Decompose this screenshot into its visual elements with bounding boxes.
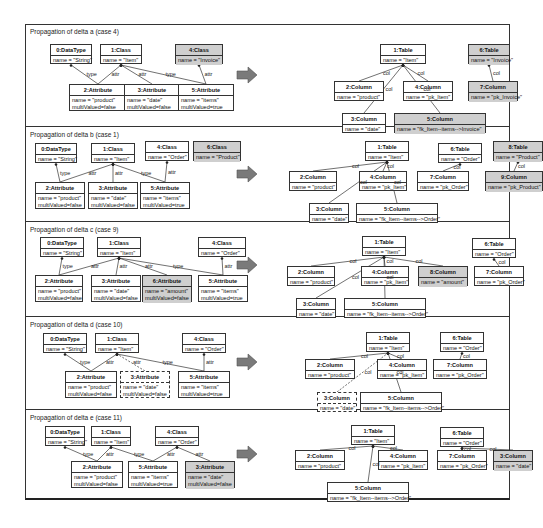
node-id: 2:Attribute xyxy=(72,462,122,473)
source-node-4-class: 4:Classname = "Order" xyxy=(155,426,199,446)
node-attribute: multiValued=true xyxy=(181,391,227,398)
target-node-6-table: 6:Tablename = "Order" xyxy=(440,332,484,352)
edge-label-type: type xyxy=(63,263,73,269)
source-node-3-attribute: 3:Attributename = "date"multiValued=fals… xyxy=(185,461,235,488)
edge-label-col: col xyxy=(361,353,368,359)
node-attributes: name = "Invoice" xyxy=(176,56,222,65)
node-attribute: name = "pk_Item" xyxy=(406,94,450,101)
node-attribute: name = "Item" xyxy=(354,438,392,445)
node-attributes: name = "pk_Item" xyxy=(362,278,408,287)
node-attribute: name = "String" xyxy=(38,156,74,163)
node-attribute: name = "Item" xyxy=(98,346,136,353)
node-attribute: name = "Item" xyxy=(365,249,403,256)
node-attribute: name = "Item" xyxy=(94,439,128,446)
node-attribute: multiValued=false xyxy=(127,104,177,111)
node-id: 6:Table xyxy=(441,333,483,344)
edge-label-attr: attr xyxy=(106,359,114,365)
target-node-1-table: 1:Tablename = "Item" xyxy=(366,332,410,352)
node-attributes: name = "Item" xyxy=(96,345,138,354)
node-attribute: name = "Order" xyxy=(443,440,481,447)
target-node-2-column: 2:Columnname = "product" xyxy=(295,450,345,470)
edge-label-col: col xyxy=(387,258,394,264)
source-node-6-attribute: 6:Attributename = "amount"multiValued=fa… xyxy=(142,275,192,302)
node-attribute: multiValued=false xyxy=(38,295,80,302)
edge-label-type: type xyxy=(87,71,97,77)
edge-label-attr: attr xyxy=(196,451,204,457)
edge-label-col: col xyxy=(352,274,359,280)
node-attributes: name = "items"multiValued=true xyxy=(199,287,247,303)
node-attribute: name = "Order" xyxy=(158,439,196,446)
node-attributes: name = "items"multiValued=true xyxy=(179,383,229,399)
target-node-4-column: 4:Columnname = "pk_Item" xyxy=(361,266,409,286)
node-attributes: name = "Order" xyxy=(441,439,483,448)
node-attributes: name = "String" xyxy=(36,155,76,164)
source-node-4-class: 4:Classname = "Order" xyxy=(182,333,226,353)
panel-delta-d: Propagation of delta d (case 10)0:DataTy… xyxy=(25,317,510,410)
source-node-1-class: 1:Classname = "Item" xyxy=(97,237,141,257)
target-node-3-column: 3:Columnname = "date" xyxy=(317,392,357,412)
edge-label-attr: attr xyxy=(168,169,176,175)
node-id: 0:DataType xyxy=(41,238,83,249)
node-attribute: name = "Order" xyxy=(475,251,513,258)
target-node-7-column: 7:Columnname = "pk_Order" xyxy=(437,450,487,470)
edge-label-col: col xyxy=(352,163,359,169)
node-id: 3:Column xyxy=(494,451,532,462)
node-id: 5:Column xyxy=(357,204,437,215)
node-id: 7:Column xyxy=(434,360,486,371)
node-id: 1:Class xyxy=(98,238,140,249)
node-attribute: name = "String" xyxy=(53,57,89,64)
node-attributes: name = "product" xyxy=(290,183,336,192)
node-attribute: multiValued=false xyxy=(38,202,82,209)
node-attributes: name = "Item" xyxy=(98,249,140,258)
edge-label-attr: attr xyxy=(206,359,214,365)
edge-label-type: type xyxy=(173,263,183,269)
target-node-6-table: 6:Tablename = "Order" xyxy=(472,238,516,258)
node-attributes: name = "product"multiValued=false xyxy=(70,96,126,112)
target-node-1-table: 1:Tablename = "Item" xyxy=(362,236,406,256)
source-node-2-attribute: 2:Attributename = "product"multiValued=f… xyxy=(69,84,127,111)
node-attribute: name = "date" xyxy=(127,97,177,104)
source-node-5-attribute: 5:Attributename = "items"multiValued=tru… xyxy=(128,461,178,488)
node-attribute: name = "Item" xyxy=(103,57,139,64)
target-node-6-table: 6:Tablename = "Order" xyxy=(440,427,484,447)
edge-label-col: col xyxy=(350,258,357,264)
node-attribute: multiValued=false xyxy=(91,202,135,209)
right-arrow-icon xyxy=(236,445,258,463)
node-attributes: name = "String" xyxy=(44,345,86,354)
edge-label-attr: attr xyxy=(89,170,97,176)
edge-label-attr: attr xyxy=(120,263,128,269)
node-id: 8:Table xyxy=(494,142,542,153)
node-id: 2:Column xyxy=(335,82,383,93)
node-attribute: name = "date" xyxy=(188,474,232,481)
node-attributes: name = "product"multiValued=false xyxy=(36,194,84,210)
node-attributes: name = "items"multiValued=true xyxy=(129,473,177,489)
node-attribute: name = "date" xyxy=(94,288,138,295)
node-id: 9:Column xyxy=(486,172,542,183)
edge-label-col: col xyxy=(365,369,372,375)
node-id: 3:Column xyxy=(318,393,356,404)
node-attributes: name = "date"multiValued=false xyxy=(89,194,137,210)
source-node-4-class: 4:Classname = "Invoice" xyxy=(175,44,223,64)
node-attributes: name = "product"multiValued=false xyxy=(36,287,82,303)
node-attribute: name = "Product" xyxy=(496,154,540,161)
node-attribute: name = "Item" xyxy=(94,156,132,163)
node-attribute: multiValued=false xyxy=(68,391,114,398)
node-attribute: multiValued=true xyxy=(143,202,187,209)
source-node-5-attribute: 5:Attributename = "items"multiValued=tru… xyxy=(198,275,248,302)
edge-label-col: col xyxy=(397,369,404,375)
node-attributes: name = "date"multiValued=false xyxy=(125,96,179,112)
node-id: 1:Table xyxy=(366,142,408,153)
source-node-0-datatype: 0:DataTypename = "String" xyxy=(40,237,84,257)
node-attribute: name = "pk_Order" xyxy=(440,463,484,470)
target-node-4-column: 4:Columnname = "pk_Item" xyxy=(378,450,428,470)
node-attributes: name = "pk_Item" xyxy=(379,462,427,471)
edge-label-col: col xyxy=(349,445,356,451)
right-arrow-icon xyxy=(236,66,258,84)
edge-label-col: col xyxy=(394,179,401,185)
edge-label-col: col xyxy=(454,164,461,170)
node-id: 5:Attribute xyxy=(179,372,229,383)
node-id: 3:Column xyxy=(297,299,335,310)
edge-label-col: col xyxy=(424,86,431,92)
node-id: 3:Attribute xyxy=(186,462,234,473)
node-id: 2:Column xyxy=(306,360,354,371)
